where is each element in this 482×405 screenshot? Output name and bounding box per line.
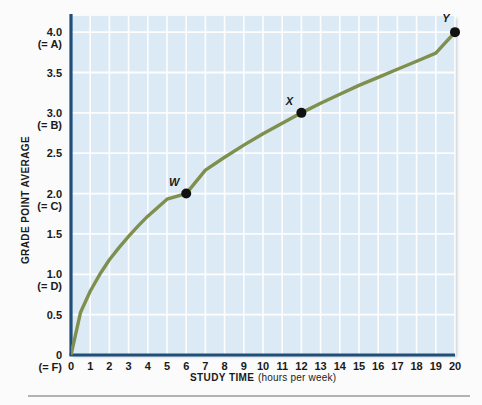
x-axis-title-units: (hours per week) — [258, 372, 336, 383]
chart-canvas: WXY 4.0(= A)3.53.0(= B)2.52.0(= C)1.51.0… — [0, 0, 482, 405]
y-axis-tick-labels: 4.0(= A)3.53.0(= B)2.52.0(= C)1.51.0(= D… — [37, 26, 62, 373]
y-tick-label: 2.5 — [47, 147, 62, 159]
y-tick-label: 4.0 — [47, 26, 62, 38]
y-axis-title: GRADE POINT AVERAGE — [20, 136, 31, 264]
data-point-y — [450, 27, 460, 37]
x-tick-label: 1 — [87, 360, 93, 372]
x-axis-title-group: STUDY TIME (hours per week) — [190, 372, 336, 383]
x-tick-label: 9 — [241, 360, 247, 372]
x-tick-label: 10 — [257, 360, 269, 372]
y-tick-grade-label: (= A) — [38, 38, 63, 50]
x-axis-title: STUDY TIME — [190, 372, 254, 383]
x-tick-label: 20 — [449, 360, 461, 372]
y-tick-label: 3.5 — [47, 67, 62, 79]
x-tick-label: 8 — [222, 360, 228, 372]
gridlines — [71, 16, 455, 355]
y-tick-label: 1.5 — [47, 228, 62, 240]
y-tick-grade-label: (= C) — [37, 200, 62, 212]
x-tick-label: 4 — [145, 360, 152, 372]
x-tick-label: 12 — [295, 360, 307, 372]
x-axis-tick-labels: 01234567891011121314151617181920 — [68, 360, 461, 372]
data-point-x — [296, 108, 306, 118]
x-tick-label: 16 — [372, 360, 384, 372]
y-tick-label: 2.0 — [47, 188, 62, 200]
data-point-w — [181, 189, 191, 199]
x-tick-label: 19 — [430, 360, 442, 372]
y-tick-grade-label: (= B) — [37, 119, 62, 131]
y-tick-grade-label: (= F) — [38, 361, 62, 373]
x-tick-label: 17 — [391, 360, 403, 372]
x-tick-label: 7 — [202, 360, 208, 372]
gpa-study-time-figure: WXY 4.0(= A)3.53.0(= B)2.52.0(= C)1.51.0… — [0, 0, 482, 405]
y-tick-label: 1.0 — [47, 268, 62, 280]
x-tick-label: 2 — [106, 360, 112, 372]
x-tick-label: 6 — [183, 360, 189, 372]
x-tick-label: 3 — [126, 360, 132, 372]
x-tick-label: 0 — [68, 360, 74, 372]
x-tick-label: 18 — [410, 360, 422, 372]
x-tick-label: 13 — [314, 360, 326, 372]
x-tick-label: 5 — [164, 360, 170, 372]
data-point-label-w: W — [169, 176, 181, 188]
data-point-label-x: X — [285, 95, 294, 107]
y-tick-label: 0.5 — [47, 309, 62, 321]
x-tick-label: 11 — [276, 360, 288, 372]
x-tick-label: 15 — [353, 360, 365, 372]
y-tick-label: 3.0 — [47, 107, 62, 119]
y-tick-grade-label: (= D) — [37, 280, 62, 292]
y-tick-label: 0 — [56, 349, 62, 361]
x-tick-label: 14 — [334, 360, 347, 372]
